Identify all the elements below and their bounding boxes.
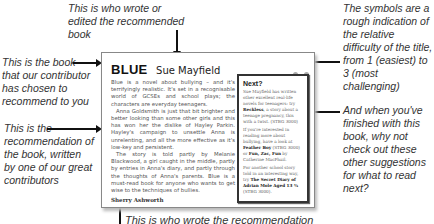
annotation-difficulty: The symbols are a rough indication of th… bbox=[343, 2, 433, 93]
next-title: Next? bbox=[243, 80, 307, 87]
reviewer-name: Sherry Ashworth bbox=[111, 197, 163, 203]
annotation-author: This is who wrote or edited the recommen… bbox=[68, 2, 188, 41]
review-text: Blue is a novel about bullying – and it'… bbox=[111, 79, 235, 194]
annotation-next: And when you've finished with this book,… bbox=[343, 104, 433, 195]
review-paragraph: The story is told partly by Melanie Blac… bbox=[111, 151, 235, 194]
arrow-book bbox=[73, 62, 97, 64]
title-row: BLUE Sue Mayfield bbox=[111, 60, 220, 78]
next-item-text: Sue Mayfield has written other excellent… bbox=[243, 89, 296, 106]
next-body: Sue Mayfield has written other excellent… bbox=[243, 89, 304, 195]
next-item-title: Fun, Zac, Fun bbox=[249, 151, 281, 156]
next-item-title: Reckless bbox=[243, 107, 264, 112]
book-title: BLUE bbox=[111, 62, 148, 77]
review-paragraph: Anna Goldsmith is just that bit brighter… bbox=[111, 108, 235, 151]
next-item: If you're interested in reading more abo… bbox=[243, 127, 304, 163]
annotation-reviewer: This is who wrote the recommendation bbox=[125, 214, 385, 224]
next-box: Next? Sue Mayfield has written other exc… bbox=[237, 74, 309, 203]
arrow-author bbox=[176, 30, 178, 52]
review-paragraph: Blue is a novel about bullying – and it'… bbox=[111, 79, 235, 108]
next-item-text: If you're interested in reading more abo… bbox=[243, 127, 292, 144]
next-item-title: Feather Boy bbox=[243, 145, 271, 150]
book-card: BLUE Sue Mayfield Blue is a novel about … bbox=[101, 52, 315, 208]
arrow-difficulty bbox=[312, 61, 340, 63]
arrow-recommendation bbox=[47, 128, 97, 130]
next-item-text: (STBG 3000). bbox=[243, 189, 272, 194]
next-item: For another school story told in an inte… bbox=[243, 165, 304, 195]
next-item-title: The Secret Diary of Adrian Mole Aged 13 … bbox=[243, 177, 298, 188]
annotation-recommendation: This is the recommendation of the book, … bbox=[4, 122, 94, 187]
next-item: Sue Mayfield has written other excellent… bbox=[243, 89, 304, 125]
book-author: Sue Mayfield bbox=[156, 65, 220, 76]
